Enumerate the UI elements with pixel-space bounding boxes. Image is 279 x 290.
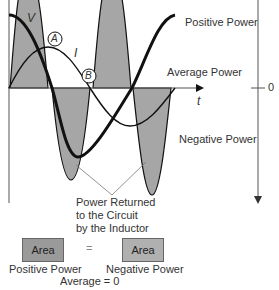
time-axis-arrow bbox=[196, 84, 204, 92]
positive-area-box: Area bbox=[22, 238, 64, 262]
voltage-label: V bbox=[27, 12, 35, 24]
average-power-label: Average Power bbox=[167, 67, 242, 78]
negative-area-caption: Negative Power bbox=[106, 264, 184, 275]
point-b-label: B bbox=[85, 71, 92, 81]
power-axis-arrow bbox=[254, 196, 262, 204]
negative-lobe-2 bbox=[133, 88, 171, 195]
average-result: Average = 0 bbox=[60, 276, 119, 287]
negative-power-label: Negative Power bbox=[179, 134, 257, 145]
power-lobes bbox=[10, 0, 171, 195]
positive-lobe-2 bbox=[93, 0, 131, 88]
power-returned-caption: Power Returned to the Circuit by the Ind… bbox=[76, 196, 156, 235]
zero-label: 0 bbox=[268, 82, 274, 93]
equals-sign: = bbox=[86, 243, 92, 254]
negative-lobe-1 bbox=[52, 88, 90, 180]
negative-area-box: Area bbox=[122, 238, 164, 262]
time-axis-label: t bbox=[197, 95, 200, 107]
positive-area-caption: Positive Power bbox=[9, 264, 82, 275]
positive-power-label: Positive Power bbox=[185, 17, 258, 28]
current-label: I bbox=[74, 47, 77, 59]
point-a-label: A bbox=[51, 34, 58, 44]
leader-lines bbox=[76, 162, 146, 195]
